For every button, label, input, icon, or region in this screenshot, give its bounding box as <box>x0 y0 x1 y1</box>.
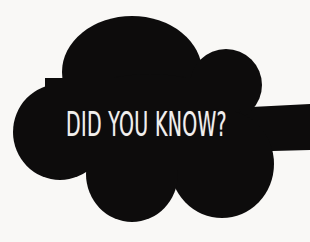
cloud-callout-body <box>13 16 310 222</box>
cloud-core-fill <box>45 78 235 170</box>
callout-graphic: DID YOU KNOW? <box>0 0 310 242</box>
cloud-callout-shape <box>0 0 310 242</box>
